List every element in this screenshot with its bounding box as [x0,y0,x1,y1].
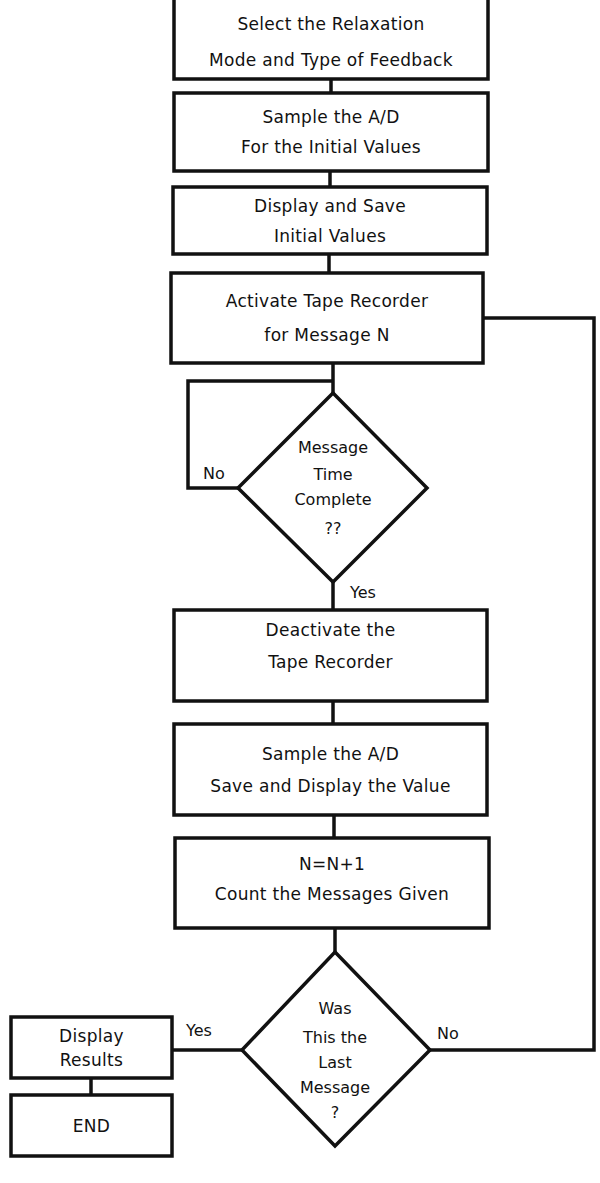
node-activate-recorder-line-1: Activate Tape Recorder [226,288,429,314]
node-display-initial: Display and Save Initial Values [173,187,487,254]
node-deactivate-recorder: Deactivate the Tape Recorder [174,610,487,682]
node-activate-recorder: Activate Tape Recorder for Message N [171,273,483,363]
node-display-initial-line-1: Display and Save [254,193,406,219]
node-display-initial-line-2: Initial Values [274,223,386,249]
node-last-message-line-5: ? [331,1100,340,1125]
node-display-results-line-1: Display [59,1024,124,1048]
node-display-results: Display Results [11,1017,172,1078]
edge-label-time-no: No [203,464,225,483]
node-select-mode: Select the Relaxation Mode and Type of F… [174,0,488,81]
node-sample-initial-line-1: Sample the A/D [262,104,399,130]
node-activate-recorder-line-2: for Message N [264,322,389,348]
edge-label-last-yes: Yes [186,1021,212,1040]
node-select-mode-line-2: Mode and Type of Feedback [209,47,453,73]
edge-label-time-yes: Yes [350,583,376,602]
node-sample-value-line-2: Save and Display the Value [210,773,450,799]
node-deactivate-recorder-line-2: Tape Recorder [268,649,393,675]
node-last-message: Was This the Last Message ? [265,990,405,1130]
node-end: END [11,1095,172,1156]
node-end-label: END [73,1113,110,1139]
node-last-message-line-4: Message [300,1075,370,1100]
node-display-results-line-2: Results [60,1048,123,1072]
node-time-complete-line-1: Message [298,435,368,460]
node-sample-initial: Sample the A/D For the Initial Values [174,93,488,171]
node-time-complete-line-3: Complete [294,487,371,512]
node-count-messages-line-1: N=N+1 [299,851,365,877]
node-sample-value-line-1: Sample the A/D [262,741,399,767]
node-sample-value: Sample the A/D Save and Display the Valu… [174,724,487,815]
node-last-message-line-3: Last [318,1050,351,1075]
node-count-messages-line-2: Count the Messages Given [215,881,449,907]
node-last-message-line-2: This the [303,1025,367,1050]
node-last-message-line-1: Was [319,996,352,1021]
node-select-mode-line-1: Select the Relaxation [237,11,424,37]
node-count-messages: N=N+1 Count the Messages Given [175,838,489,920]
node-sample-initial-line-2: For the Initial Values [241,134,421,160]
node-time-complete: Message Time Complete ?? [263,426,403,550]
node-time-complete-line-2: Time [313,462,352,487]
edge-label-last-no: No [437,1024,459,1043]
node-deactivate-recorder-line-1: Deactivate the [266,617,396,643]
node-time-complete-line-4: ?? [325,516,342,541]
